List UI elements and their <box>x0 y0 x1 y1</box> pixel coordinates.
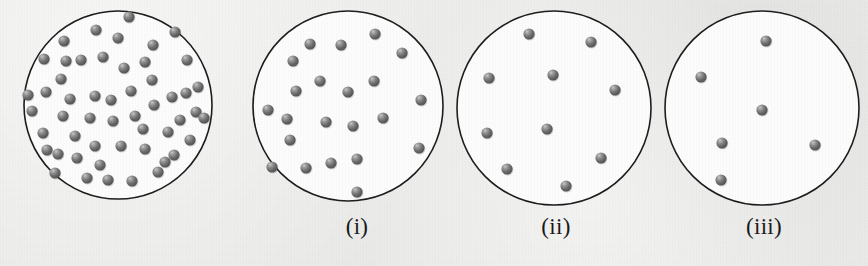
vessel-outline <box>253 11 443 201</box>
particle <box>304 38 315 49</box>
particle <box>52 148 63 159</box>
particle <box>118 62 129 73</box>
particle <box>262 104 273 115</box>
particle <box>413 142 424 153</box>
particle <box>89 140 100 151</box>
particle <box>377 112 388 123</box>
particle <box>137 123 148 134</box>
particle <box>115 140 126 151</box>
particle <box>695 71 706 82</box>
particle <box>523 28 534 39</box>
particle <box>123 11 134 22</box>
particle <box>152 166 163 177</box>
particle <box>266 161 277 172</box>
particle <box>139 56 150 67</box>
particle <box>547 69 558 80</box>
particle <box>284 134 295 145</box>
particle <box>281 113 292 124</box>
particle <box>69 130 80 141</box>
particle <box>314 75 325 86</box>
caption-panel-i: (i) <box>346 214 369 240</box>
particle <box>26 105 37 116</box>
particle <box>181 54 192 65</box>
particle <box>148 99 159 110</box>
particle <box>107 115 118 126</box>
particle <box>335 39 346 50</box>
particle <box>38 53 49 64</box>
particle <box>22 89 33 100</box>
particle <box>560 180 571 191</box>
particle <box>287 55 298 66</box>
caption-panel-iii: (iii) <box>746 214 782 240</box>
particle <box>351 153 362 164</box>
particle <box>40 86 51 97</box>
particle <box>126 175 137 186</box>
particle <box>102 174 113 185</box>
particle <box>481 127 492 138</box>
vessel-outline <box>457 11 651 205</box>
particle <box>184 134 195 145</box>
particle <box>125 85 136 96</box>
particle <box>809 139 820 150</box>
particle <box>756 104 767 115</box>
particle <box>595 152 606 163</box>
particle <box>139 143 150 154</box>
particle <box>71 152 82 163</box>
particle <box>147 39 158 50</box>
particle <box>37 127 48 138</box>
particle <box>41 144 52 155</box>
particle <box>347 120 358 131</box>
particle <box>300 162 311 173</box>
vessels-canvas <box>0 0 868 266</box>
particle <box>60 55 71 66</box>
particle <box>716 137 727 148</box>
particle <box>368 75 379 86</box>
particle <box>180 87 191 98</box>
particle <box>342 86 353 97</box>
particle <box>97 51 108 62</box>
particle-density-figure: (i) (ii) (iii) <box>0 0 868 266</box>
particle <box>162 126 173 137</box>
particle <box>320 116 331 127</box>
particle <box>351 186 362 197</box>
particle <box>58 35 69 46</box>
particle <box>501 163 512 174</box>
particle <box>81 172 92 183</box>
particle <box>89 90 100 101</box>
particle <box>415 94 426 105</box>
particle <box>483 72 494 83</box>
particle <box>159 156 170 167</box>
particle <box>325 157 336 168</box>
particle <box>105 94 116 105</box>
particle <box>290 85 301 96</box>
caption-panel-ii: (ii) <box>541 214 570 240</box>
particle <box>57 110 68 121</box>
particle <box>715 174 726 185</box>
particle <box>64 93 75 104</box>
particle <box>396 47 407 58</box>
particle <box>55 73 66 84</box>
particle <box>112 32 123 43</box>
particle <box>94 159 105 170</box>
particle <box>369 28 380 39</box>
particle <box>129 110 140 121</box>
particle <box>49 167 60 178</box>
particle <box>198 112 209 123</box>
particle <box>75 54 86 65</box>
particle <box>585 36 596 47</box>
particle <box>609 84 620 95</box>
particle <box>169 26 180 37</box>
particle <box>146 74 157 85</box>
particle <box>174 114 185 125</box>
particle <box>84 112 95 123</box>
particle <box>541 123 552 134</box>
particle <box>760 35 771 46</box>
particle <box>166 91 177 102</box>
particle <box>90 24 101 35</box>
particle <box>168 149 179 160</box>
particle <box>192 81 203 92</box>
